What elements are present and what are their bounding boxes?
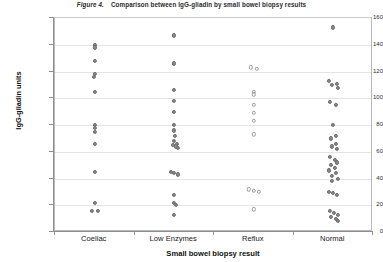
data-point (252, 207, 256, 211)
data-point (252, 119, 256, 123)
gridline (55, 179, 371, 180)
data-point (252, 92, 256, 96)
data-point (336, 85, 340, 89)
gridline (55, 205, 371, 206)
data-point (93, 59, 97, 63)
y-tick-mark (49, 151, 53, 152)
data-point (172, 123, 176, 127)
data-point (93, 142, 97, 146)
y-tick-label: 60 (337, 148, 383, 154)
figure-title: Figure 4.Comparison between IgG-gliadin … (0, 1, 383, 8)
y-tick-label: 120 (337, 68, 383, 74)
y-tick-label: 100 (337, 94, 383, 100)
data-point (92, 75, 96, 79)
data-point (172, 110, 176, 114)
data-point (334, 142, 338, 146)
data-point (93, 170, 97, 174)
y-tick-mark (49, 17, 53, 18)
data-point (173, 134, 177, 138)
data-point (252, 103, 256, 107)
data-point (252, 188, 256, 192)
y-tick-mark (49, 231, 53, 232)
data-point (255, 67, 259, 71)
data-point (257, 190, 261, 194)
y-tick-mark (49, 71, 53, 72)
x-tick-mark (134, 231, 135, 235)
data-point (93, 130, 97, 134)
data-point (335, 160, 339, 164)
data-point (335, 192, 339, 196)
data-point (176, 172, 180, 176)
data-point (249, 65, 253, 69)
data-point (172, 88, 176, 92)
data-point (96, 209, 100, 213)
data-point (330, 174, 334, 178)
y-tick-label: 80 (337, 121, 383, 127)
x-tick-mark (213, 231, 214, 235)
figure-label: Figure 4. (77, 1, 104, 8)
y-tick-label: 160 (337, 14, 383, 20)
plot-area (54, 17, 372, 231)
data-point (328, 155, 332, 159)
figure-caption: Comparison between IgG-gliadin by small … (111, 1, 306, 8)
data-point (174, 203, 178, 207)
data-point (93, 89, 97, 93)
data-point (247, 187, 251, 191)
y-tick-label: 140 (337, 41, 383, 47)
gridline (55, 152, 371, 153)
data-point (334, 103, 338, 107)
data-point (93, 200, 97, 204)
data-point (172, 61, 176, 65)
x-tick-mark (54, 231, 55, 235)
x-tick-label: Coeliac (81, 234, 106, 243)
data-point (331, 123, 335, 127)
data-point (327, 168, 331, 172)
data-point (172, 99, 176, 103)
data-point (331, 25, 335, 29)
data-point (176, 146, 180, 150)
x-tick-label: Normal (320, 234, 344, 243)
gridline (55, 125, 371, 126)
data-point (93, 45, 97, 49)
data-point (172, 128, 176, 132)
y-tick-label: 20 (337, 201, 383, 207)
y-tick-mark (49, 124, 53, 125)
data-point (90, 209, 94, 213)
data-point (330, 179, 334, 183)
data-point (252, 132, 256, 136)
x-tick-mark (293, 231, 294, 235)
gridline (55, 72, 371, 73)
y-tick-mark (49, 44, 53, 45)
data-point (330, 83, 334, 87)
y-tick-mark (49, 97, 53, 98)
data-point (172, 213, 176, 217)
y-tick-mark (49, 204, 53, 205)
y-tick-label: 40 (337, 175, 383, 181)
data-point (333, 166, 337, 170)
x-tick-label: Reflux (242, 234, 264, 243)
y-axis-title: IgG-gliadin units (14, 1, 23, 201)
data-point (172, 33, 176, 37)
data-point (334, 134, 338, 138)
data-point (252, 111, 256, 115)
x-tick-label: Low Enzymes (150, 234, 197, 243)
data-point (328, 100, 332, 104)
data-point (336, 219, 340, 223)
gridline (55, 98, 371, 99)
y-tick-mark (49, 178, 53, 179)
x-tick-mark (372, 231, 373, 235)
gridline (55, 45, 371, 46)
x-axis-title: Small bowel biopsy result (54, 249, 372, 258)
data-point (172, 192, 176, 196)
data-point (329, 136, 333, 140)
